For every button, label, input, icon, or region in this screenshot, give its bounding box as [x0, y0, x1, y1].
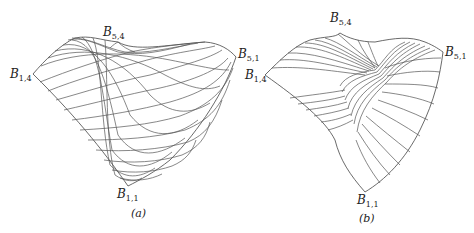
surface-b: [265, 33, 443, 192]
label-a-top: B5,4: [102, 25, 125, 41]
svg-text:B5,1: B5,1: [237, 47, 260, 63]
svg-text:B5,4: B5,4: [329, 11, 352, 27]
label-b-right: B5,1: [444, 45, 467, 61]
surface-a: [33, 37, 236, 186]
label-a-bottom: B1,1: [116, 187, 139, 203]
label-a-left: B1,4: [9, 67, 32, 83]
caption-a: (a): [131, 207, 146, 220]
caption-b: (b): [359, 212, 375, 225]
svg-text:B1,4: B1,4: [9, 67, 32, 83]
figure-canvas: B5,4 B1,4 B5,1 B1,1 (a): [0, 0, 474, 233]
label-b-bottom: B1,1: [356, 193, 379, 209]
svg-text:B1,1: B1,1: [356, 193, 379, 209]
label-b-top: B5,4: [329, 11, 352, 27]
label-a-right: B5,1: [237, 47, 260, 63]
svg-text:B1,4: B1,4: [244, 68, 267, 84]
svg-text:B1,1: B1,1: [116, 187, 139, 203]
label-b-left: B1,4: [244, 68, 267, 84]
svg-text:B5,1: B5,1: [444, 45, 467, 61]
svg-text:B5,4: B5,4: [102, 25, 125, 41]
